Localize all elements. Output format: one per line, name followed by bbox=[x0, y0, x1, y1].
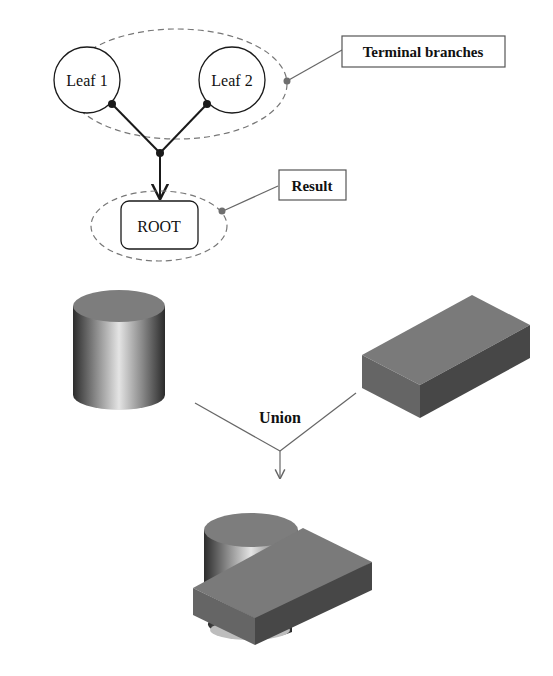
union-result-solid bbox=[193, 513, 372, 645]
leaf-1-label: Leaf 1 bbox=[66, 72, 107, 89]
root-node[interactable]: ROOT bbox=[121, 201, 198, 249]
terminal-callout-leader bbox=[287, 50, 342, 81]
result-callout-leader bbox=[223, 186, 278, 211]
terminal-callout-dot bbox=[284, 78, 291, 85]
leaf-1-port-dot bbox=[108, 100, 116, 108]
edge-leaf2-junction bbox=[160, 104, 207, 153]
csg-tree-diagram: Leaf 1 Leaf 2 ROOT Terminal branches Res… bbox=[0, 0, 553, 676]
root-label: ROOT bbox=[137, 218, 181, 235]
union-label: Union bbox=[259, 409, 301, 426]
leaf-2-label: Leaf 2 bbox=[211, 72, 252, 89]
result-callout-dot bbox=[219, 208, 226, 215]
cylinder-solid bbox=[73, 290, 165, 410]
terminal-branches-callout: Terminal branches bbox=[342, 36, 505, 67]
result-callout: Result bbox=[279, 170, 346, 200]
leaf-2-port-dot bbox=[203, 100, 211, 108]
edge-leaf1-junction bbox=[112, 104, 160, 153]
result-callout-label: Result bbox=[292, 178, 333, 194]
box-solid bbox=[362, 295, 530, 418]
terminal-callout-label: Terminal branches bbox=[363, 44, 484, 60]
